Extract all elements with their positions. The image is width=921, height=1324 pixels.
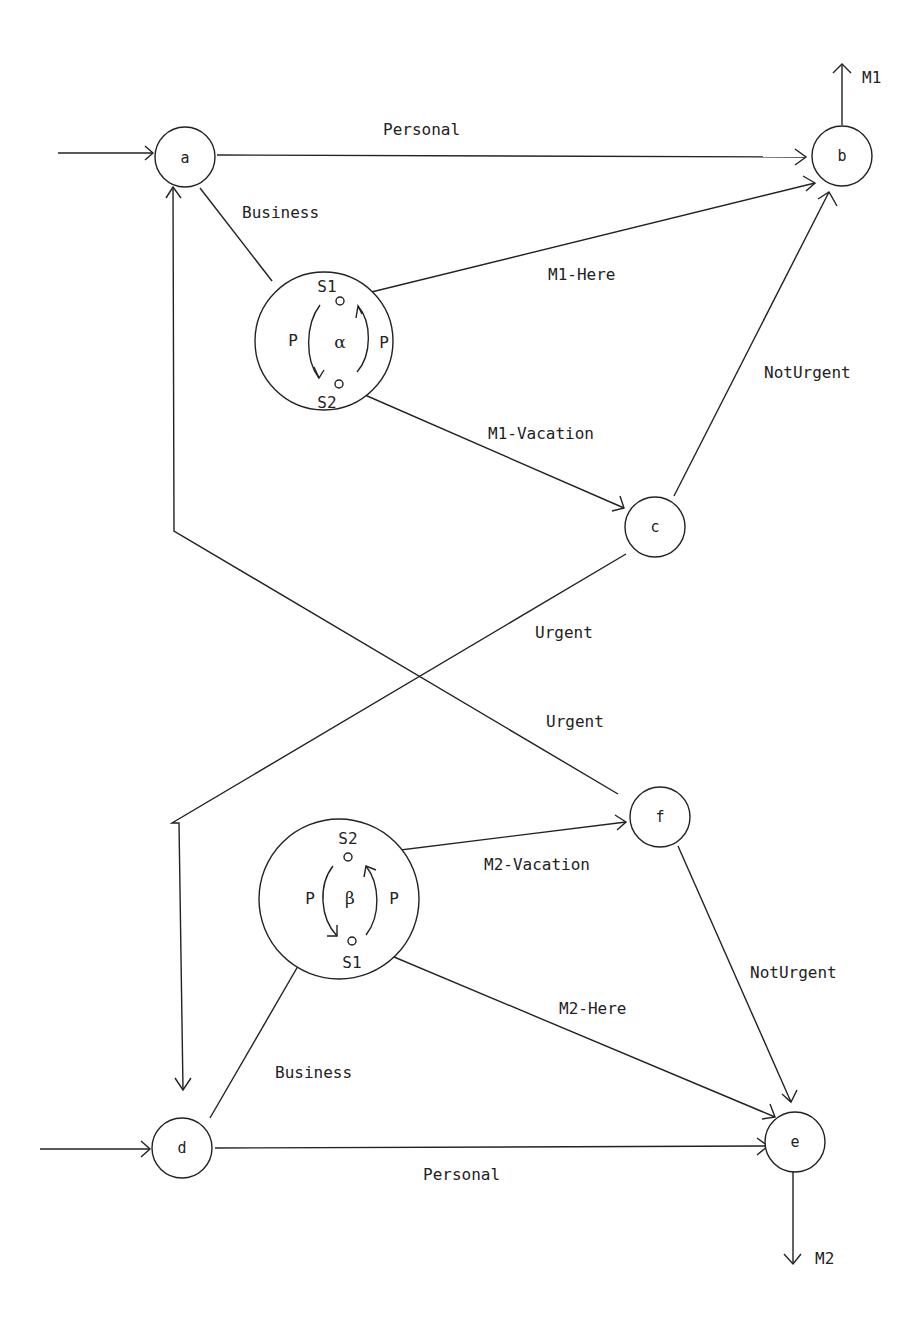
alpha-bottom-state-label: S2 [317, 393, 336, 412]
output-arrow-m1 [833, 64, 851, 125]
beta-right-transition-label: P [389, 889, 399, 908]
state-diagram: S1 S2 P P α S2 S1 P P β a b c d e [0, 0, 921, 1324]
label-beta-f: M2-Vacation [484, 855, 590, 874]
beta-left-transition-label: P [305, 889, 315, 908]
entry-arrow-d [40, 1141, 150, 1157]
alpha-left-transition-label: P [288, 331, 298, 350]
node-e-label: e [790, 1133, 799, 1151]
label-output-m2: M2 [815, 1249, 834, 1268]
label-f-e: NotUrgent [750, 963, 837, 982]
state-beta-s2-dot [344, 853, 352, 861]
superstate-alpha[interactable]: S1 S2 P P α [255, 272, 393, 412]
beta-top-state-label: S2 [338, 829, 357, 848]
label-f-a: Urgent [546, 712, 604, 731]
entry-arrow-a [58, 146, 153, 160]
beta-symbol: β [345, 888, 355, 908]
state-alpha-s2-dot [335, 380, 343, 388]
node-d[interactable]: d [152, 1118, 212, 1178]
label-d-e: Personal [423, 1165, 500, 1184]
output-arrow-m2 [784, 1172, 801, 1264]
edge-d-e [215, 1138, 768, 1155]
edge-c-b [674, 192, 837, 496]
beta-bottom-state-label: S1 [342, 953, 361, 972]
alpha-symbol: α [334, 332, 346, 352]
node-a[interactable]: a [155, 127, 215, 187]
node-d-label: d [177, 1139, 186, 1157]
diagram-svg: S1 S2 P P α S2 S1 P P β a b c d e [0, 0, 921, 1324]
label-c-d: Urgent [535, 623, 593, 642]
node-c[interactable]: c [625, 497, 685, 557]
node-c-label: c [650, 518, 659, 536]
node-e[interactable]: e [765, 1112, 825, 1172]
label-beta-e: M2-Here [559, 999, 626, 1018]
label-alpha-b: M1-Here [548, 265, 615, 284]
superstate-beta[interactable]: S2 S1 P P β [259, 819, 419, 979]
edge-alpha-c [342, 385, 624, 511]
node-f[interactable]: f [630, 787, 690, 847]
node-b-label: b [837, 147, 846, 165]
label-a-alpha: Business [242, 203, 319, 222]
alpha-top-state-label: S1 [317, 277, 336, 296]
label-c-b: NotUrgent [764, 363, 851, 382]
label-alpha-c: M1-Vacation [488, 424, 594, 443]
alpha-right-transition-label: P [379, 333, 389, 352]
node-b[interactable]: b [812, 126, 872, 186]
edge-a-b [217, 149, 806, 165]
state-beta-s1-dot [348, 937, 356, 945]
edge-a-alpha [200, 188, 272, 281]
label-a-b: Personal [383, 120, 460, 139]
node-a-label: a [180, 149, 189, 167]
state-alpha-s1-dot [336, 297, 344, 305]
edge-beta-e [356, 941, 775, 1119]
label-d-beta: Business [275, 1063, 352, 1082]
label-output-m1: M1 [862, 68, 881, 87]
node-f-label: f [655, 808, 664, 826]
